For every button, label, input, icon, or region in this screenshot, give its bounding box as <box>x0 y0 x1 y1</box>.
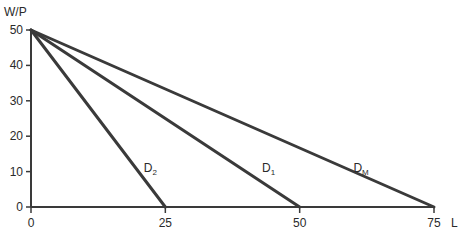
series-group <box>31 30 434 207</box>
series-label-subscript: M <box>362 168 369 177</box>
x-axis-title: L <box>451 216 458 230</box>
series-line-dm <box>31 30 434 207</box>
series-label-main: D <box>353 161 362 175</box>
series-label-main: D <box>144 161 153 175</box>
series-line-d2 <box>31 30 165 207</box>
series-label-subscript: 1 <box>271 168 276 177</box>
x-tick-label: 25 <box>159 216 173 230</box>
y-tick-label: 50 <box>10 23 24 37</box>
series-label-dm: DM <box>353 161 369 177</box>
series-label-d2: D2 <box>144 161 158 177</box>
y-tick-label: 20 <box>10 129 24 143</box>
y-tick-label: 0 <box>16 200 23 214</box>
axes: 010203040500255075 <box>10 23 441 230</box>
series-label-d1: D1 <box>262 161 276 177</box>
series-label-main: D <box>262 161 271 175</box>
series-line-d1 <box>31 30 300 207</box>
y-tick-label: 10 <box>10 165 24 179</box>
y-tick-label: 30 <box>10 94 24 108</box>
x-tick-label: 75 <box>427 216 441 230</box>
chart: 010203040500255075 W/PLD2D1DM <box>0 0 469 236</box>
x-tick-label: 50 <box>293 216 307 230</box>
y-axis-title: W/P <box>4 5 27 19</box>
x-tick-label: 0 <box>28 216 35 230</box>
series-label-subscript: 2 <box>153 168 158 177</box>
y-tick-label: 40 <box>10 58 24 72</box>
